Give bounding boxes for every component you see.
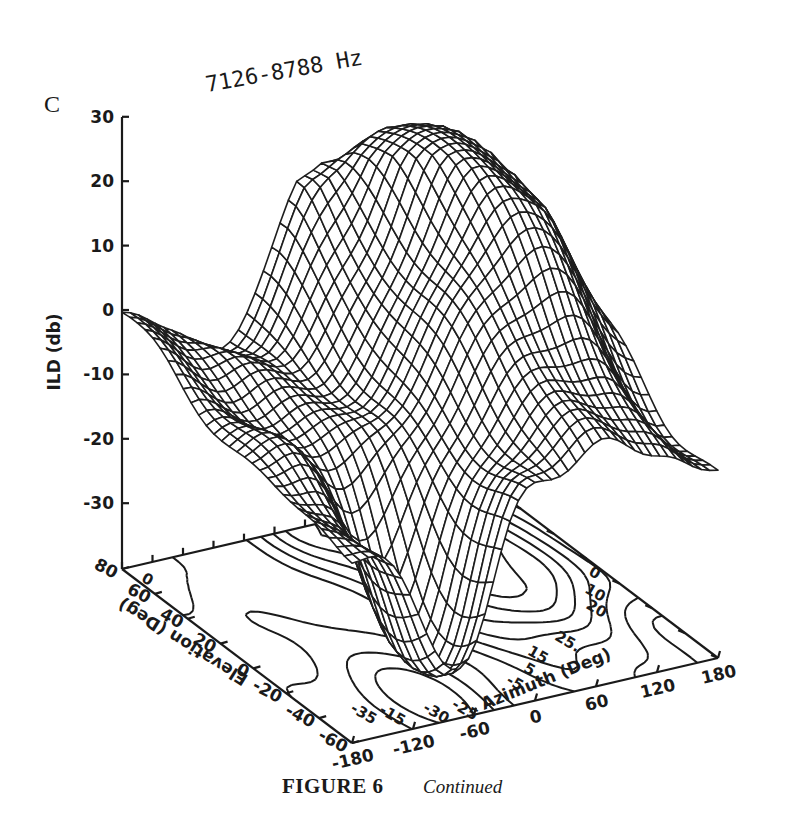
z-axis: 3020100-10-20-30	[83, 107, 129, 569]
contour-label: -35	[348, 699, 380, 728]
right-edge-tick	[645, 605, 652, 608]
chart-title: 7126-8788 Hz	[204, 45, 365, 97]
z-tick-label: 30	[90, 107, 114, 127]
y-tick-label: 80	[91, 554, 121, 583]
z-tick-label: 20	[90, 171, 114, 191]
x-tick	[718, 651, 720, 658]
figure-caption-label: FIGURE 6	[282, 774, 383, 798]
contour-label: 25.	[552, 627, 584, 656]
y-axis-title: Elevation (Deg)	[115, 594, 252, 690]
right-edge-tick	[547, 531, 554, 534]
right-edge-tick	[612, 580, 619, 583]
z-axis-title: ILD (db)	[44, 313, 64, 390]
y-tick	[155, 592, 162, 594]
y-tick	[253, 666, 260, 668]
z-tick-label: -20	[83, 429, 114, 449]
z-tick-label: -10	[83, 364, 114, 384]
base-left-edge	[122, 569, 352, 743]
panel-letter: C	[44, 91, 60, 117]
x-tick-label: -120	[391, 730, 437, 759]
x-tick-label: 120	[638, 675, 677, 703]
right-edge-tick	[711, 655, 718, 658]
contour-label: -30	[420, 698, 452, 727]
x-tick-label: -60	[457, 718, 492, 744]
figure-caption-text: Continued	[423, 776, 503, 797]
x-tick-label: 60	[583, 690, 611, 715]
right-edge-tick	[678, 630, 685, 633]
elevation-axis: 806040200-20-40-60	[91, 554, 359, 757]
y-tick-label: -40	[282, 700, 319, 732]
z-tick-label: 0	[102, 300, 114, 320]
y-tick	[221, 642, 228, 644]
z-tick-label: -30	[83, 493, 114, 513]
contour-label: 10	[582, 580, 609, 606]
y-tick	[319, 716, 326, 718]
y-tick	[188, 617, 195, 619]
surface-mesh	[122, 124, 718, 677]
x-tick-label: 180	[699, 660, 738, 688]
x-tick-label: 0	[528, 706, 544, 728]
figure-canvas: C 7126-8788 Hz 3020100-10-20-30 ILD (db)…	[0, 0, 785, 822]
z-tick-label: 10	[90, 236, 114, 256]
y-tick-label: -20	[249, 675, 286, 707]
